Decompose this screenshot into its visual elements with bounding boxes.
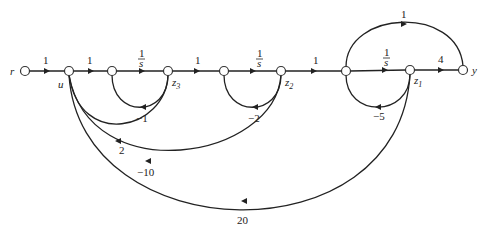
edge-n6-y: [346, 22, 463, 67]
gain-z1-u-feedback: 20: [237, 214, 249, 226]
gain-n6-z1-den: s: [384, 56, 388, 68]
node-z2: [277, 67, 286, 76]
arrow-icon: [44, 68, 50, 74]
arrow-icon: [140, 104, 146, 110]
arrow-icon: [311, 68, 317, 74]
node-label-u: u: [58, 78, 64, 90]
edge-z3-n2-feedback: [112, 75, 168, 107]
gain-z2-n4-feedback: −2: [248, 112, 260, 124]
arrow-icon: [194, 68, 200, 74]
node-z3: [164, 67, 173, 76]
gain-z3-n4: 1: [195, 54, 201, 66]
arrow-icon: [252, 104, 258, 110]
node-label-y: y: [471, 64, 477, 76]
arrow-icon: [145, 158, 151, 164]
node-r: [21, 67, 30, 76]
forward-path: [29, 67, 459, 74]
node-label-r: r: [10, 65, 15, 77]
gain-z1-y: 4: [438, 53, 444, 65]
gain-z2-u-feedback: −10: [137, 166, 155, 178]
edge-z1-n6-feedback: [346, 74, 410, 107]
node-label-z3: z3: [171, 76, 180, 91]
arrow-icon: [88, 68, 94, 74]
gain-n4-z2-den: s: [257, 57, 261, 69]
node-n4: [220, 67, 229, 76]
gain-u-n2: 1: [87, 54, 93, 66]
gain-z3-n2-feedback: −1: [136, 112, 148, 124]
node-u: [65, 67, 74, 76]
gain-r-u: 1: [43, 54, 49, 66]
gain-z3-u-feedback: 2: [119, 144, 125, 156]
gain-n2-z3-den: s: [139, 57, 143, 69]
arrow-icon: [241, 198, 247, 204]
node-y: [459, 66, 468, 75]
edge-n6-z1: [350, 70, 406, 71]
arrow-icon: [250, 68, 256, 74]
gain-n6-y: 1: [401, 8, 407, 20]
gain-z2-n6: 1: [313, 54, 319, 66]
edge-z3-u-feedback: [69, 75, 168, 124]
arrow-icon: [438, 67, 444, 73]
gain-z1-n6-feedback: −5: [373, 110, 385, 122]
signal-flow-graph: r u z3 z2 z1 y 1 1 1 s 1 1 s 1 1 s 4 1 −…: [0, 0, 488, 236]
node-label-z2: z2: [284, 76, 293, 91]
node-n2: [108, 67, 117, 76]
node-n6: [342, 67, 351, 76]
node-label-z1: z1: [413, 74, 422, 89]
